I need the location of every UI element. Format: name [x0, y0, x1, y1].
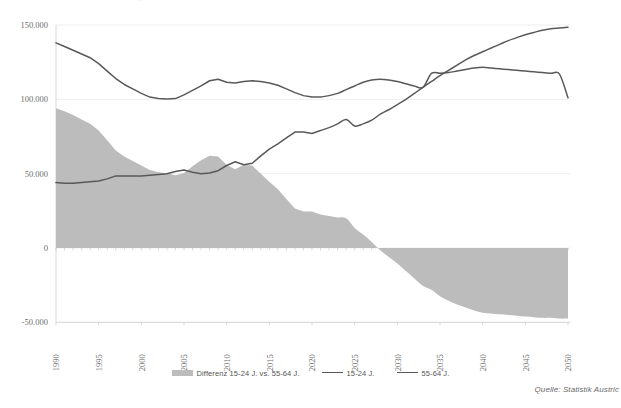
legend-swatch-line-icon	[397, 372, 418, 373]
legend-item-15-24[interactable]: 15-24 J.	[322, 368, 375, 378]
chart-legend: Differenz 15-24 J. vs. 55-64 J.15-24 J.5…	[0, 368, 621, 378]
y-axis-tick-label: 50.000	[25, 169, 48, 179]
y-axis-tick-label: 100.000	[20, 94, 48, 104]
chart-container: Arbeitsmarkt: Jüngere und Ältere Erwerbs…	[0, 0, 621, 408]
line-series-15-24-j-	[56, 27, 568, 183]
chart-plot-area: 150.000100.00050.0000-50.000199019952000…	[0, 0, 621, 408]
legend-item-55-64[interactable]: 55-64 J.	[397, 368, 450, 378]
area-series-differenz	[56, 108, 568, 318]
y-axis-tick-label: 150.000	[20, 20, 48, 30]
legend-swatch-area-icon	[172, 370, 193, 376]
legend-item-differenz[interactable]: Differenz 15-24 J. vs. 55-64 J.	[172, 368, 300, 378]
source-note: Quelle: Statistik Austric	[535, 385, 619, 394]
legend-label: 15-24 J.	[347, 369, 375, 378]
y-axis-tick-label: -50.000	[22, 317, 48, 327]
y-axis-tick-label: 0	[44, 243, 48, 253]
legend-label: 55-64 J.	[422, 369, 450, 378]
line-series-55-64-j-	[56, 43, 568, 99]
legend-swatch-line-icon	[322, 372, 343, 373]
legend-label: Differenz 15-24 J. vs. 55-64 J.	[197, 369, 300, 378]
